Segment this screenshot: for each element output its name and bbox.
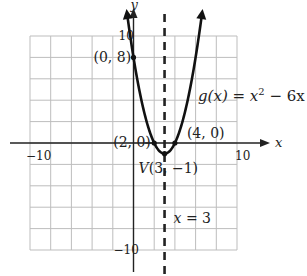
curve-arrowhead-icon [196,9,206,20]
vertex-marker [162,151,167,156]
parabola-graph: −101010−10 (0, 8)(2, 0)(4, 0)V(3, −1) x … [0,0,307,276]
y-tick-label: −10 [114,243,139,257]
vertex-label: V(3, −1) [139,160,199,176]
vertex-label-coords: (3, −1) [149,160,198,176]
x-axis-label: x [275,135,283,150]
y-axis-label: y [130,0,139,12]
x-intercept-right-marker [172,140,177,145]
symmetry-label-rest: = 3 [181,210,211,226]
axis-of-symmetry-label: x = 3 [174,210,211,226]
function-label: g(x) = x2 − 6x + [198,86,307,105]
y-intercept-label: (0, 8) [94,49,132,65]
y-intercept-marker [131,55,136,60]
x-intercept-right-label: (4, 0) [187,125,225,141]
x-axis-arrow-icon [260,139,270,147]
function-label-suffix: − 6x + [265,87,307,105]
x-intercept-left-marker [152,140,157,145]
symmetry-label-var: x [174,210,182,226]
x-tick-label: 10 [235,149,250,163]
x-tick-label: −10 [26,149,51,163]
function-label-prefix: g(x) = x [198,87,259,105]
x-intercept-left-label: (2, 0) [113,134,151,150]
